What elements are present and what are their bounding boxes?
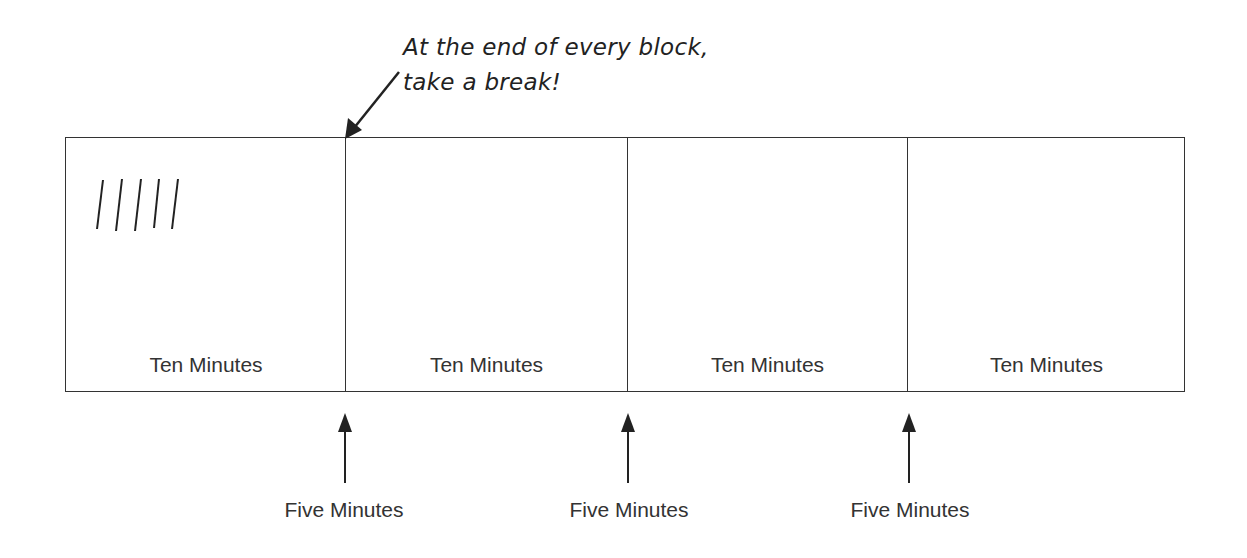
break-label-1: Five Minutes — [284, 498, 403, 522]
tally-marks-icon — [97, 179, 178, 231]
break-label-3: Five Minutes — [850, 498, 969, 522]
diagram-overlay — [0, 0, 1247, 558]
break-arrow-icon — [621, 413, 635, 483]
break-arrow-icon — [902, 413, 916, 483]
break-arrow-icon — [338, 413, 352, 483]
break-label-2: Five Minutes — [569, 498, 688, 522]
caption-arrow-icon — [345, 72, 399, 139]
